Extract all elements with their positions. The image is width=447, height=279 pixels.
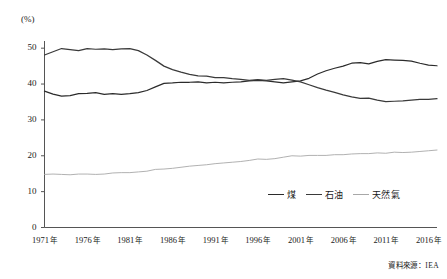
series-line-煤 xyxy=(45,60,438,97)
x-axis-tick-year-suffix: 年 xyxy=(263,236,270,245)
x-axis-tick-year: 1981 xyxy=(117,235,134,245)
x-axis-tick-year-suffix: 年 xyxy=(391,236,398,245)
legend-entry-天然氣[interactable]: 天然氣 xyxy=(353,188,401,201)
x-axis-tick-year-suffix: 年 xyxy=(221,236,228,245)
x-axis-tick-label: 2011年 xyxy=(373,236,398,245)
x-axis-tick-year-suffix: 年 xyxy=(349,236,356,245)
x-axis-tick-year-suffix: 年 xyxy=(434,236,441,245)
y-axis-tick-label: 30 xyxy=(15,115,37,124)
y-axis-tick-label: 20 xyxy=(15,151,37,160)
legend-label: 天然氣 xyxy=(372,188,401,201)
x-axis-tick-year: 1971 xyxy=(32,235,49,245)
x-axis-tick-label: 1971年 xyxy=(32,236,57,245)
x-axis-tick-label: 2001年 xyxy=(288,236,313,245)
x-axis-tick-label: 2016年 xyxy=(416,236,441,245)
x-axis-tick-year: 2011 xyxy=(373,235,390,245)
x-axis-tick-year: 1991 xyxy=(203,235,220,245)
x-axis-tick-label: 1981年 xyxy=(117,236,142,245)
x-axis-tick-label: 2006年 xyxy=(331,236,356,245)
x-axis-tick-label: 1986年 xyxy=(160,236,185,245)
y-axis-tick-label: 0 xyxy=(15,223,37,232)
source-note: 資料來源：IEA xyxy=(388,259,439,270)
x-axis-tick-year: 1996 xyxy=(245,235,262,245)
legend-label: 煤 xyxy=(287,188,297,201)
legend-entry-煤[interactable]: 煤 xyxy=(268,188,297,201)
x-axis-tick-year: 2016 xyxy=(416,235,433,245)
legend-line-swatch-icon xyxy=(353,194,369,195)
y-axis-ticks xyxy=(41,48,45,227)
x-axis-tick-year-suffix: 年 xyxy=(178,236,185,245)
data-series-group xyxy=(45,49,438,175)
legend-label: 石油 xyxy=(325,188,344,201)
y-axis-tick-label: 10 xyxy=(15,187,37,196)
x-axis-tick-year: 2001 xyxy=(288,235,305,245)
x-axis-tick-year: 1976 xyxy=(75,235,92,245)
x-axis-tick-year-suffix: 年 xyxy=(93,236,100,245)
legend-line-swatch-icon xyxy=(306,194,322,195)
x-axis-tick-year: 1986 xyxy=(160,235,177,245)
x-axis-tick-year-suffix: 年 xyxy=(50,236,57,245)
x-axis-tick-year-suffix: 年 xyxy=(135,236,142,245)
chart-legend: 煤石油天然氣 xyxy=(268,188,400,201)
y-axis-tick-label: 50 xyxy=(15,43,37,52)
legend-entry-石油[interactable]: 石油 xyxy=(306,188,344,201)
x-axis-tick-year-suffix: 年 xyxy=(306,236,313,245)
x-axis-tick-label: 1991年 xyxy=(203,236,228,245)
x-axis-tick-label: 1976年 xyxy=(75,236,100,245)
y-axis-tick-label: 40 xyxy=(15,79,37,88)
chart-figure: (%) 01020304050 1971年1976年1981年1986年1991… xyxy=(0,0,447,279)
series-line-天然氣 xyxy=(45,150,438,175)
x-axis-tick-label: 1996年 xyxy=(245,236,270,245)
legend-line-swatch-icon xyxy=(268,194,284,195)
x-axis-tick-year: 2006 xyxy=(331,235,348,245)
